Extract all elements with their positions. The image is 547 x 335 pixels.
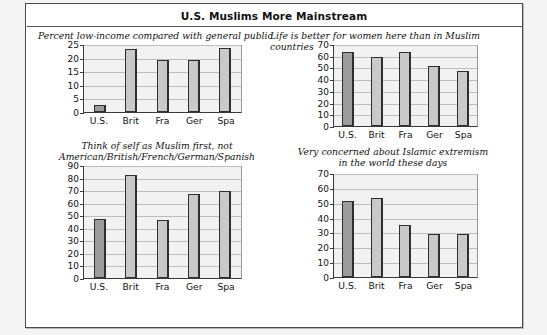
bar-spa [219,191,231,278]
y-tick-label: 50 [318,63,329,73]
x-axis-labels-muslim-first: U.S.BritFraGerSpa [83,281,242,292]
bar-slot [448,46,477,126]
bar-slot [210,46,241,112]
x-tick-label: Ger [420,129,449,140]
y-tick-label: 5 [73,94,79,104]
x-tick-label: U.S. [333,280,362,291]
y-tick-label: 0 [323,122,329,132]
y-tick-label: 15 [68,67,79,77]
bar-brit [371,198,383,277]
y-axis-labels: 0510152025 [62,45,82,113]
figure-title: U.S. Muslims More Mainstream [26,10,522,22]
bar-series [334,46,477,126]
bar-slot [391,175,420,277]
y-tick-label: 30 [318,87,329,97]
x-tick-label: Fra [147,115,179,126]
x-tick-label: Fra [391,280,420,291]
bar-fra [157,60,169,112]
bar-brit [125,175,137,278]
y-tick-label: 50 [318,199,329,209]
y-tick-label: 30 [318,228,329,238]
title-divider [27,26,523,27]
y-axis-labels: 010203040506070 [312,45,332,127]
y-tick-label: 90 [68,161,79,171]
bar-us [342,52,354,126]
bar-fra [399,225,411,277]
page-background: U.S. Muslims More Mainstream Percent low… [0,0,547,335]
bar-slot [84,167,115,278]
y-axis-tick [80,113,84,114]
y-tick-label: 40 [68,224,79,234]
x-tick-label: Fra [147,281,179,292]
bar-slot [115,167,146,278]
bar-ger [428,234,440,277]
x-tick-label: U.S. [333,129,362,140]
bar-slot [363,175,392,277]
chart-caption-muslim-first: Think of self as Muslim first, not Ameri… [34,140,280,162]
x-tick-label: U.S. [83,281,115,292]
bar-series [84,46,241,112]
y-axis-tick [330,278,334,279]
bar-brit [371,57,383,126]
bar-ger [428,66,440,126]
x-tick-label: Ger [420,280,449,291]
x-tick-label: Brit [115,281,147,292]
bar-slot [334,46,363,126]
y-tick-label: 0 [73,274,79,284]
bar-slot [147,167,178,278]
x-axis-labels-islamic-extremism: U.S.BritFraGerSpa [333,280,478,291]
bar-brit [125,49,137,112]
bar-spa [457,234,469,277]
bar-ger [188,60,200,112]
y-tick-label: 20 [68,54,79,64]
x-tick-label: Brit [362,280,391,291]
bar-series [84,167,241,278]
bar-us [94,105,106,112]
bar-slot [84,46,115,112]
plot-area-muslim-first: 0102030405060708090 [62,166,242,279]
y-tick-label: 70 [318,40,329,50]
y-tick-label: 20 [318,243,329,253]
x-tick-label: Brit [115,115,147,126]
x-tick-label: Fra [391,129,420,140]
bar-slot [334,175,363,277]
bar-slot [115,46,146,112]
plot-body [83,45,242,113]
y-axis-tick [80,279,84,280]
y-tick-label: 10 [318,258,329,268]
y-tick-label: 20 [68,249,79,259]
plot-area-islamic-extremism: 010203040506070 [312,174,478,278]
y-tick-label: 40 [318,214,329,224]
y-axis-labels: 010203040506070 [312,174,332,278]
y-tick-label: 50 [68,211,79,221]
x-tick-label: Spa [210,115,242,126]
figure-frame: U.S. Muslims More Mainstream Percent low… [25,3,523,328]
chart-caption-islamic-extremism: Very concerned about Islamic extremism i… [270,146,516,168]
y-tick-label: 60 [318,184,329,194]
bar-spa [219,48,231,112]
x-tick-label: U.S. [83,115,115,126]
y-tick-label: 0 [323,273,329,283]
bar-ger [188,194,200,278]
chart-panel-muslim-first: Think of self as Muslim first, not Ameri… [34,140,284,316]
x-tick-label: Ger [178,115,210,126]
bar-slot [178,46,209,112]
plot-area-life-better-women: 010203040506070 [312,45,478,127]
y-tick-label: 10 [318,110,329,120]
bar-spa [457,71,469,126]
chart-panel-life-better-women: Life is better for women here than in Mu… [270,30,520,142]
y-tick-label: 30 [68,236,79,246]
bar-us [94,219,106,278]
bar-us [342,201,354,277]
x-tick-label: Ger [178,281,210,292]
plot-body [83,166,242,279]
bar-slot [178,167,209,278]
x-axis-labels-life-better-women: U.S.BritFraGerSpa [333,129,478,140]
y-tick-label: 40 [318,75,329,85]
x-tick-label: Spa [449,129,478,140]
bar-slot [363,46,392,126]
plot-body [333,45,478,127]
x-tick-label: Brit [362,129,391,140]
chart-panel-low-income: Percent low-income compared with general… [34,30,274,138]
y-axis-labels: 0102030405060708090 [62,166,82,279]
